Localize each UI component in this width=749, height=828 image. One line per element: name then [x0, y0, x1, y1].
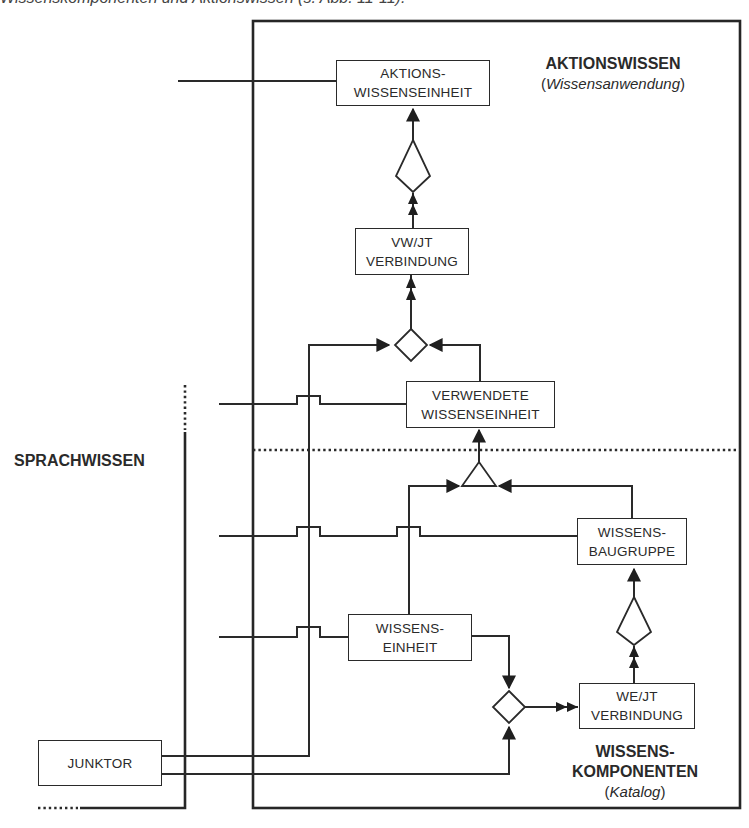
- baugruppe-to-triangle: [499, 486, 632, 522]
- region-title: SPRACHWISSEN: [14, 451, 184, 471]
- box-label: VERBINDUNG: [366, 252, 458, 271]
- wissenseinheit-to-diamond: [472, 636, 509, 688]
- box-verwendete-wisseneinheit[interactable]: VERWENDETE WISSENSEINHEIT: [406, 381, 555, 428]
- box-label: JUNKTOR: [68, 754, 133, 773]
- box-label: VERWENDETE: [432, 386, 529, 405]
- region-title: KOMPONENTEN: [545, 762, 725, 782]
- label-wissenskomponenten: WISSENS- KOMPONENTEN (Katalog): [545, 742, 725, 801]
- triangle-generalization-icon: [462, 462, 496, 486]
- double-arrow-icon: [556, 702, 578, 712]
- box-wissensbaugruppe[interactable]: WISSENS- BAUGRUPPE: [577, 518, 687, 565]
- baugruppe-input-line: [219, 527, 577, 536]
- box-wissenseinheit[interactable]: WISSENS- EINHEIT: [348, 614, 472, 661]
- box-label: BAUGRUPPE: [589, 542, 676, 561]
- region-title: WISSENS-: [545, 742, 725, 762]
- box-junktor[interactable]: JUNKTOR: [38, 740, 162, 786]
- kite-aktions-icon: [396, 140, 430, 192]
- label-sprachwissen: SPRACHWISSEN: [14, 451, 184, 471]
- verwendete-input-line: [219, 396, 406, 404]
- box-label: AKTIONS-: [380, 64, 445, 83]
- box-label: EINHEIT: [383, 638, 438, 657]
- region-subtitle: (Wissensanwendung): [518, 74, 708, 93]
- double-arrow-icon: [408, 193, 418, 215]
- box-label: VW/JT: [391, 233, 433, 252]
- junktor-upper-connector: [162, 345, 389, 756]
- box-label: WISSENS-: [376, 619, 444, 638]
- kite-baugruppe-icon: [617, 597, 651, 645]
- double-arrow-icon: [629, 646, 639, 668]
- verwendete-to-diamond-line: [430, 345, 480, 381]
- box-label: WISSENS-: [598, 523, 666, 542]
- box-label: WISSENSEINHEIT: [421, 405, 539, 424]
- junktor-lower-connector: [162, 727, 509, 774]
- box-aktions-wissenseinheit[interactable]: AKTIONS- WISSENSEINHEIT: [336, 60, 490, 106]
- double-arrow-icon: [406, 276, 416, 300]
- box-label: WE/JT: [616, 687, 658, 706]
- region-title: AKTIONSWISSEN: [518, 54, 708, 74]
- wissenseinheit-to-triangle: [409, 486, 459, 614]
- label-aktionswissen: AKTIONSWISSEN (Wissensanwendung): [518, 54, 708, 93]
- box-label: VERBINDUNG: [591, 706, 683, 725]
- box-we-jt-verbindung[interactable]: WE/JT VERBINDUNG: [579, 683, 695, 729]
- diamond-bottom-icon: [493, 691, 525, 723]
- wissenseinheit-input-line: [219, 627, 348, 637]
- box-label: WISSENSEINHEIT: [354, 83, 472, 102]
- region-subtitle: (Katalog): [545, 782, 725, 801]
- box-vw-jt-verbindung[interactable]: VW/JT VERBINDUNG: [355, 228, 469, 275]
- diamond-top-icon: [395, 329, 427, 361]
